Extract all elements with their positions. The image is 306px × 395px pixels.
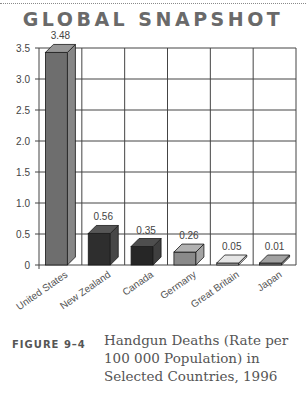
bar-us: 3.48 — [45, 30, 75, 265]
y-tick-label: 1.5 — [16, 167, 30, 178]
y-tick-label: 0 — [24, 260, 30, 271]
x-tick-label: Japan — [255, 269, 284, 294]
x-tick-label: Germany — [158, 269, 198, 302]
y-axis-ticks: 00.51.01.52.02.53.03.5 — [16, 43, 30, 271]
data-label: 3.48 — [51, 30, 71, 41]
bar-great-britain: 0.05 — [217, 241, 247, 265]
bar-germany: 0.26 — [174, 230, 204, 265]
bar-japan: 0.01 — [260, 241, 290, 265]
data-label: 0.05 — [222, 241, 242, 252]
data-label: 0.01 — [265, 241, 285, 252]
y-tick-label: 3.0 — [16, 74, 30, 85]
y-tick-label: 3.5 — [16, 43, 30, 54]
bar-canada: 0.35 — [131, 225, 161, 266]
x-axis-labels: United StatesNew ZealandCanadaGermanyGre… — [14, 268, 284, 312]
bar-chart: 00.51.01.52.02.53.03.5 3.480.560.350.260… — [0, 0, 306, 330]
figure-caption: Handgun Deaths (Rate per 100 000 Populat… — [104, 331, 304, 385]
data-label: 0.35 — [136, 225, 156, 236]
x-tick-label: Great Britain — [189, 269, 241, 310]
y-tick-label: 2.0 — [16, 136, 30, 147]
data-label: 0.56 — [94, 211, 114, 222]
data-label: 0.26 — [179, 230, 199, 241]
bar-nz: 0.56 — [88, 211, 118, 265]
figure-label: FIGURE 9–4 — [12, 339, 86, 350]
y-tick-label: 2.5 — [16, 105, 30, 116]
y-tick-label: 0.5 — [16, 229, 30, 240]
x-tick-label: Canada — [120, 268, 155, 297]
y-tick-label: 1.0 — [16, 198, 30, 209]
